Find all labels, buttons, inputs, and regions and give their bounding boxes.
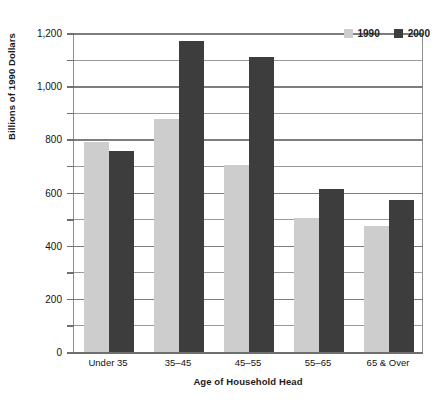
bar-2000	[179, 41, 204, 352]
y-axis-tick-label: 0	[56, 347, 62, 358]
y-axis-tick-labels: 02004006008001,0001,200	[0, 0, 68, 401]
y-axis-tick-label: 1,000	[37, 81, 62, 92]
bar-1990	[294, 218, 319, 352]
y-axis-tick-label: 1,200	[37, 28, 62, 39]
bar-chart: Billions of 1990 Dollars 02004006008001,…	[0, 0, 442, 401]
legend-swatch-icon	[394, 29, 403, 38]
y-axis-tickmark	[67, 86, 74, 88]
y-axis-tickmark	[67, 60, 74, 62]
legend-item-2000: 2000	[394, 28, 430, 39]
plot-area	[73, 33, 423, 352]
bar-group	[224, 33, 274, 352]
y-axis-tick-label: 400	[45, 240, 62, 251]
y-axis-tickmark	[67, 352, 74, 354]
bar-1990	[154, 119, 179, 352]
x-axis-tick-label: Under 35	[88, 357, 127, 368]
x-axis-tick-label: 65 & Over	[367, 357, 410, 368]
bar-group	[364, 33, 414, 352]
bar-2000	[389, 200, 414, 352]
bar-2000	[319, 189, 344, 352]
y-axis-tick-label: 200	[45, 293, 62, 304]
y-axis-tickmark	[67, 166, 74, 168]
bar-1990	[364, 226, 389, 352]
x-axis-title: Age of Household Head	[73, 376, 423, 387]
bar-2000	[249, 57, 274, 352]
bar-2000	[109, 151, 134, 352]
y-axis-tickmark	[67, 219, 74, 221]
bar-group	[294, 33, 344, 352]
bar-1990	[84, 142, 109, 352]
y-axis-tickmark	[67, 139, 74, 141]
legend-item-1990: 1990	[344, 28, 380, 39]
x-axis-tick-label: 35–45	[165, 357, 191, 368]
y-axis-tick-label: 800	[45, 134, 62, 145]
y-axis-tickmark	[67, 246, 74, 248]
y-axis-tickmark	[67, 113, 74, 115]
axis-baseline	[73, 352, 423, 354]
bar-1990	[224, 165, 249, 352]
x-axis-tick-label: 45–55	[235, 357, 261, 368]
bar-group	[84, 33, 134, 352]
y-axis-tickmark	[67, 299, 74, 301]
y-axis-tickmark	[67, 272, 74, 274]
legend-label: 2000	[408, 28, 430, 39]
legend-swatch-icon	[344, 29, 353, 38]
bars-layer	[74, 33, 422, 352]
chart-legend: 19902000	[344, 28, 431, 39]
legend-label: 1990	[358, 28, 380, 39]
y-axis-tickmark	[67, 33, 74, 35]
x-axis-tick-labels: Under 3535–4545–5555–6565 & Over	[73, 357, 423, 371]
y-axis-tickmark	[67, 325, 74, 327]
y-axis-tick-label: 600	[45, 187, 62, 198]
bar-group	[154, 33, 204, 352]
y-axis-tickmark	[67, 193, 74, 195]
x-axis-tick-label: 55–65	[305, 357, 331, 368]
